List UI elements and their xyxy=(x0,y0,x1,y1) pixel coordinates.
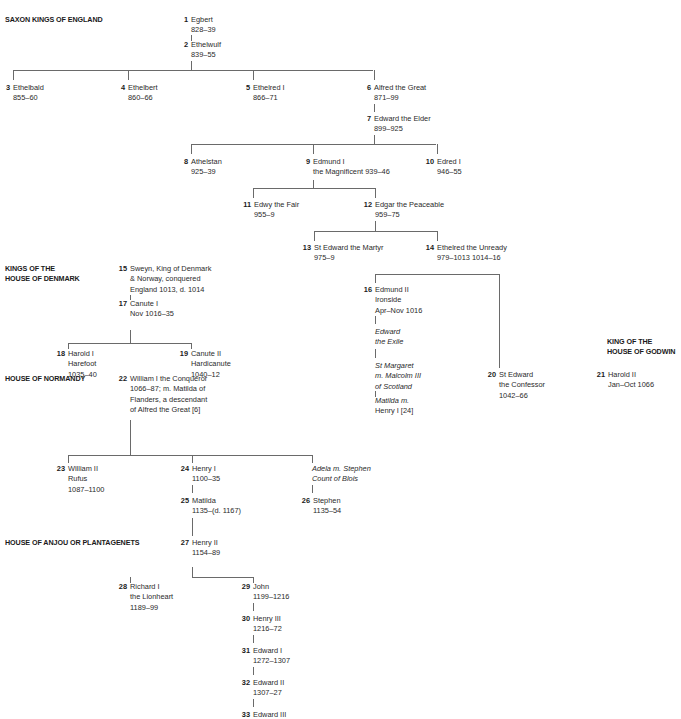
monarch-number: 29 xyxy=(242,582,250,592)
monarch-detail: England 1013, d. 1014 xyxy=(130,285,211,295)
monarch-name: Richard I xyxy=(130,582,173,592)
monarch-number: 12 xyxy=(364,200,372,210)
monarch-detail: 955–9 xyxy=(254,210,299,220)
monarch-detail: Hardicanute xyxy=(191,359,231,369)
monarch-number: 5 xyxy=(246,83,250,93)
connector-vertical xyxy=(128,70,129,80)
monarch-number: 2 xyxy=(184,40,188,50)
monarch-number: 9 xyxy=(306,157,310,167)
monarch-node-17: 17Canute INov 1016–35 xyxy=(130,299,174,320)
monarch-name: Egbert xyxy=(191,15,216,25)
monarch-name: Harold I xyxy=(68,349,97,359)
monarch-name: Henry I xyxy=(192,464,220,474)
monarch-number: 4 xyxy=(121,83,125,93)
monarch-name: Canute I xyxy=(130,299,174,309)
monarch-name: Edward III xyxy=(253,710,286,719)
connector-vertical xyxy=(68,455,69,463)
monarch-number: 1 xyxy=(184,15,188,25)
monarch-node-12: 12Edgar the Peaceable959–75 xyxy=(375,200,444,221)
monarch-name: Ethelbald xyxy=(13,83,44,93)
heading-line: SAXON KINGS OF ENGLAND xyxy=(5,15,103,25)
monarch-detail: 1216–72 xyxy=(253,624,282,634)
relative-node: Edwardthe Exile xyxy=(375,327,403,348)
monarch-name: Edward the Elder xyxy=(374,114,431,124)
monarch-name: Henry II xyxy=(192,538,220,548)
monarch-node-16: 16Edmund IIIronsideApr–Nov 1016 xyxy=(375,285,422,316)
monarch-node-25: 25Matilda1135–(d. 1167) xyxy=(192,496,241,517)
heading-line: KING OF THE xyxy=(607,337,675,347)
monarch-number: 31 xyxy=(242,646,250,656)
monarch-node-14: 14Ethelred the Unready979–1013 1014–16 xyxy=(437,243,507,264)
monarch-detail: Jan–Oct 1066 xyxy=(608,380,654,390)
monarch-number: 24 xyxy=(181,464,189,474)
monarch-node-28: 28Richard Ithe Lionheart1189–99 xyxy=(130,582,173,613)
monarch-number: 28 xyxy=(119,582,127,592)
monarch-detail: of Alfred the Great [6] xyxy=(130,405,207,415)
monarch-node-20: 20St Edwardthe Confessor1042–66 xyxy=(499,370,545,401)
connector-vertical xyxy=(375,349,376,358)
connector-vertical xyxy=(312,485,313,493)
monarch-node-21: 21Harold IIJan–Oct 1066 xyxy=(608,370,654,391)
connector-vertical xyxy=(313,180,314,188)
monarch-name: Edred I xyxy=(437,157,462,167)
monarch-number: 20 xyxy=(488,370,496,380)
connector-vertical xyxy=(312,455,313,463)
monarch-node-31: 31Edward I1272–1307 xyxy=(253,646,290,667)
monarch-detail: 1272–1307 xyxy=(253,656,290,666)
connector-vertical xyxy=(499,274,500,368)
connector-vertical xyxy=(253,699,254,707)
monarch-name: Sweyn, King of Denmark xyxy=(130,264,211,274)
monarch-detail: 1135–54 xyxy=(313,506,341,516)
monarch-name: Canute II xyxy=(191,349,231,359)
monarch-detail: the Confessor xyxy=(499,380,545,390)
monarch-detail: the Exile xyxy=(375,337,403,347)
monarch-number: 25 xyxy=(181,496,189,506)
monarch-name: Edwy the Fair xyxy=(254,200,299,210)
monarch-node-27: 27Henry II1154–89 xyxy=(192,538,220,559)
connector-horizontal xyxy=(192,577,253,578)
monarch-number: 16 xyxy=(364,285,372,295)
connector-vertical xyxy=(375,316,376,324)
monarch-node-22: 22William I the Conqueror1066–87; m. Mat… xyxy=(130,374,207,415)
monarch-detail: 959–75 xyxy=(375,210,444,220)
connector-vertical xyxy=(192,485,193,493)
monarch-number: 13 xyxy=(303,243,311,253)
monarch-detail: Apr–Nov 1016 xyxy=(375,306,422,316)
monarch-name: Harold II xyxy=(608,370,654,380)
monarch-node-29: 29John1199–1216 xyxy=(253,582,289,603)
monarch-node-9: 9Edmund Ithe Magnificent 939–46 xyxy=(313,157,390,178)
monarch-detail: 1199–1216 xyxy=(253,592,289,602)
monarch-node-30: 30Henry III1216–72 xyxy=(253,614,282,635)
monarch-detail: Count of Blois xyxy=(312,474,371,484)
connector-horizontal xyxy=(13,70,373,71)
monarch-name: Ethelbert xyxy=(128,83,158,93)
monarch-number: 14 xyxy=(426,243,434,253)
section-heading-godwin: KING OF THEHOUSE OF GODWIN xyxy=(607,337,675,357)
monarch-number: 3 xyxy=(6,83,10,93)
monarch-node-15: 15Sweyn, King of Denmark& Norway, conque… xyxy=(130,264,211,295)
monarch-number: 27 xyxy=(181,538,189,548)
monarch-detail: 1042–66 xyxy=(499,391,545,401)
monarch-node-33: 33Edward III xyxy=(253,710,286,719)
monarch-detail: the Lionheart xyxy=(130,592,173,602)
monarch-detail: 1035–40 xyxy=(68,370,97,380)
monarch-name: Ethelwulf xyxy=(191,40,221,50)
connector-horizontal xyxy=(375,274,499,275)
monarch-detail: 828–39 xyxy=(191,25,216,35)
monarch-detail: 979–1013 1014–16 xyxy=(437,253,507,263)
monarch-number: 7 xyxy=(367,114,371,124)
connector-vertical xyxy=(253,635,254,643)
heading-line: KINGS OF THE xyxy=(5,264,80,274)
monarch-detail: 866–71 xyxy=(253,93,285,103)
monarch-number: 18 xyxy=(57,349,65,359)
connector-vertical xyxy=(191,144,192,154)
monarch-detail: 855–60 xyxy=(13,93,44,103)
connector-vertical xyxy=(314,231,315,241)
monarch-node-6: 6Alfred the Great871–99 xyxy=(374,83,426,104)
monarch-name: Adela m. Stephen xyxy=(312,464,371,474)
monarch-detail: of Scotland xyxy=(375,382,421,392)
monarch-name: St Edward the Martyr xyxy=(314,243,383,253)
monarch-detail: Ironside xyxy=(375,295,422,305)
connector-vertical xyxy=(253,603,254,611)
monarch-node-10: 10Edred I946–55 xyxy=(437,157,462,178)
